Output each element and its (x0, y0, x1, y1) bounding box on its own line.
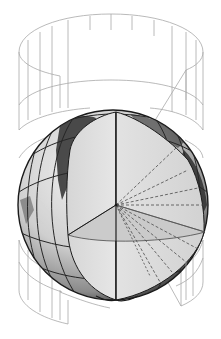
cutaway-wedge (67, 112, 205, 301)
cutaway-globe (18, 110, 208, 301)
globe-projection-diagram (0, 0, 221, 339)
globe-center-point (115, 204, 118, 207)
